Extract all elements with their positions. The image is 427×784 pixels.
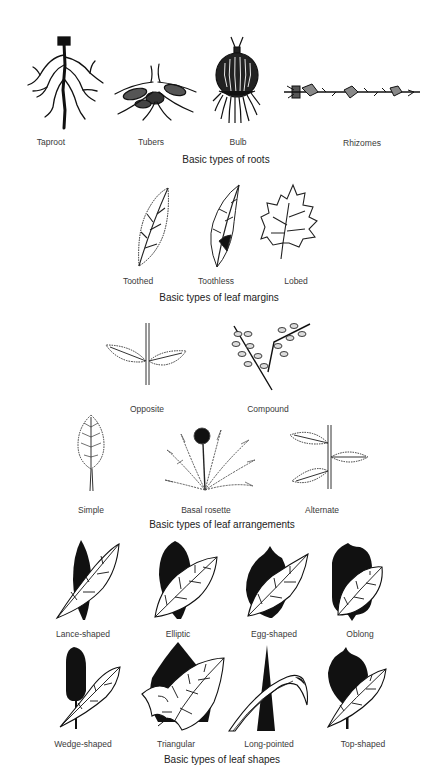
label-bulb: Bulb [229,137,246,147]
alternate-arrangement-icon [288,425,368,490]
label-compound: Compound [247,404,289,414]
triangular-leaf-icon [138,642,228,732]
compound-arrangement-icon [228,322,313,394]
elliptic-leaf-icon [153,541,218,621]
label-lobed: Lobed [284,276,308,286]
label-oblong: Oblong [346,629,373,639]
label-toothed: Toothed [123,276,153,286]
label-elliptic: Elliptic [166,629,191,639]
label-alternate: Alternate [305,505,339,515]
label-opposite: Opposite [130,404,164,414]
label-wedge-shaped: Wedge-shaped [54,739,112,749]
label-simple: Simple [78,505,104,515]
lobed-leaf-icon [259,183,319,261]
top-shaped-leaf-icon [326,647,388,729]
caption-roots: Basic types of roots [182,154,269,165]
label-egg-shaped: Egg-shaped [251,629,297,639]
label-triangular: Triangular [157,739,195,749]
egg-shaped-leaf-icon [244,546,309,621]
taproot-icon [25,35,105,130]
label-top-shaped: Top-shaped [341,739,385,749]
lance-shaped-leaf-icon [55,540,120,620]
toothless-leaf-icon [205,183,240,269]
opposite-arrangement-icon [102,323,192,387]
label-taproot: Taproot [37,137,65,147]
long-pointed-leaf-icon [227,645,312,733]
wedge-shaped-leaf-icon [58,647,123,729]
label-long-pointed: Long-pointed [244,739,294,749]
label-tubers: Tubers [138,137,164,147]
label-lance-shaped: Lance-shaped [56,629,110,639]
bulb-icon [213,35,261,125]
label-basal-rosette: Basal rosette [181,505,231,515]
tubers-icon [113,62,198,122]
label-rhizomes: Rhizomes [343,138,381,148]
caption-leaf-shapes: Basic types of leaf shapes [164,754,280,765]
caption-leaf-arrangements: Basic types of leaf arrangements [149,519,295,530]
label-toothless: Toothless [198,276,234,286]
rhizomes-icon [282,78,422,108]
basal-rosette-icon [163,424,258,496]
oblong-leaf-icon [330,543,385,621]
caption-leaf-margins: Basic types of leaf margins [159,292,279,303]
simple-leaf-icon [76,413,106,493]
toothed-leaf-icon [135,186,170,268]
